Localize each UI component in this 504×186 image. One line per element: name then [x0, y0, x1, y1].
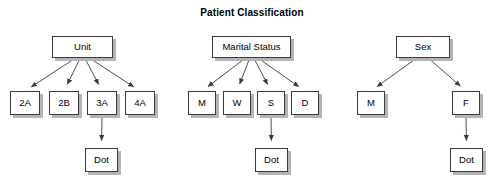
edge-unit-to-unit-2b [67, 58, 80, 84]
diagram-canvas: Patient Classification Unit2A2B3A4ADotMa… [0, 0, 504, 186]
edge-marital-status-to-marital-w [240, 58, 250, 84]
edge-unit-to-unit-2a [31, 58, 75, 87]
node-label: D [302, 98, 309, 108]
node-label: W [233, 98, 242, 108]
node-unit-dot[interactable]: Dot [85, 148, 118, 172]
node-marital-s[interactable]: S [257, 91, 285, 115]
edge-marital-status-to-marital-d [258, 58, 299, 87]
edge-sex-to-sex-m [377, 58, 417, 87]
node-marital-dot[interactable]: Dot [255, 148, 288, 172]
node-unit-3a[interactable]: 3A [87, 91, 117, 115]
node-sex-f[interactable]: F [452, 91, 480, 115]
node-unit[interactable]: Unit [52, 36, 113, 58]
edge-unit-to-unit-3a [85, 58, 99, 84]
node-marital-d[interactable]: D [291, 91, 319, 115]
node-unit-2b[interactable]: 2B [49, 91, 79, 115]
edge-sex-to-sex-f [428, 58, 460, 86]
node-label: M [198, 98, 206, 108]
node-marital-m[interactable]: M [188, 91, 216, 115]
edge-marital-status-to-marital-s [254, 58, 268, 84]
node-label: 4A [134, 98, 146, 108]
node-label: Unit [74, 42, 91, 52]
node-label: F [463, 98, 469, 108]
node-unit-4a[interactable]: 4A [125, 91, 155, 115]
node-label: Sex [415, 42, 431, 52]
node-label: Dot [94, 155, 109, 165]
edge-marital-status-to-marital-m [208, 58, 246, 86]
node-label: 3A [96, 98, 108, 108]
node-label: M [367, 98, 375, 108]
node-label: 2A [19, 98, 31, 108]
node-label: 2B [58, 98, 70, 108]
node-marital-w[interactable]: W [223, 91, 251, 115]
node-sex-m[interactable]: M [357, 91, 385, 115]
node-unit-2a[interactable]: 2A [10, 91, 40, 115]
node-label: Dot [264, 155, 279, 165]
node-label: Marital Status [222, 42, 280, 52]
page-title: Patient Classification [0, 7, 504, 18]
node-label: S [268, 98, 274, 108]
node-label: Dot [459, 155, 474, 165]
node-sex-dot[interactable]: Dot [450, 148, 483, 172]
node-marital-status[interactable]: Marital Status [212, 36, 291, 58]
edge-unit-to-unit-4a [89, 58, 133, 87]
node-sex[interactable]: Sex [396, 36, 450, 58]
